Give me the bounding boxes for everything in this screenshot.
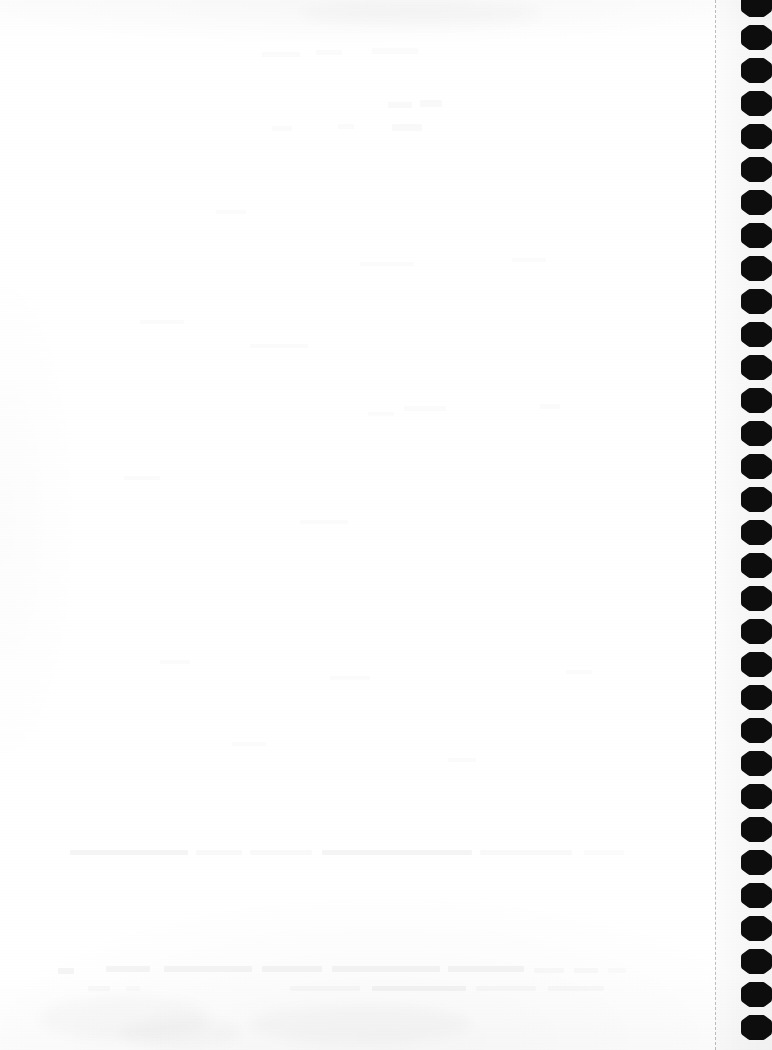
binding-hole — [741, 388, 772, 413]
binding-hole — [741, 718, 772, 743]
binding-hole — [741, 883, 772, 908]
binding-hole — [741, 586, 772, 611]
paper-sheet — [0, 0, 772, 1050]
binding-hole — [741, 157, 772, 182]
binding-hole — [741, 91, 772, 116]
binding-hole — [741, 58, 772, 83]
binding-hole — [741, 553, 772, 578]
binding-hole — [741, 289, 772, 314]
binding-hole — [741, 751, 772, 776]
binding-hole — [741, 817, 772, 842]
scanned-page — [0, 0, 772, 1050]
binding-hole — [741, 652, 772, 677]
binding-hole — [741, 322, 772, 347]
binding-hole — [741, 190, 772, 215]
binding-hole — [741, 685, 772, 710]
binding-hole — [741, 256, 772, 281]
binding-hole — [741, 949, 772, 974]
binding-hole — [741, 25, 772, 50]
binding-hole — [741, 619, 772, 644]
binding-hole — [741, 454, 772, 479]
spiral-binding-hole-column — [741, 0, 772, 1050]
binding-hole — [741, 421, 772, 446]
binding-hole — [741, 0, 772, 17]
perforation-dashed-line — [715, 0, 716, 1050]
binding-hole — [741, 487, 772, 512]
binding-hole — [741, 916, 772, 941]
binding-hole — [741, 1015, 772, 1040]
binding-hole — [741, 982, 772, 1007]
binding-hole — [741, 520, 772, 545]
binding-hole — [741, 850, 772, 875]
binding-hole — [741, 124, 772, 149]
binding-hole — [741, 223, 772, 248]
binding-hole — [741, 784, 772, 809]
binding-hole — [741, 355, 772, 380]
